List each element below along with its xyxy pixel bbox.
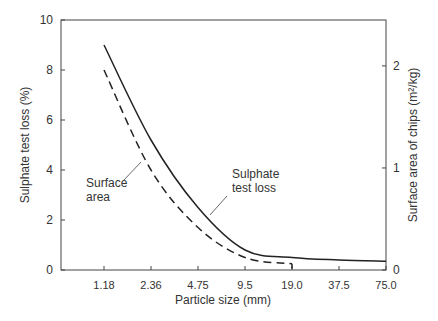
y-tick-label: 10 — [40, 13, 54, 27]
x-axis-label: Particle size (mm) — [175, 293, 271, 307]
series-lines — [104, 45, 386, 269]
y-tick-label: 8 — [46, 63, 53, 77]
y2-tick-label: 1 — [393, 161, 400, 175]
annotation-sulphate-test-loss: Sulphate test loss — [210, 167, 280, 215]
svg-text:area: area — [86, 190, 110, 204]
x-tick-label: 19.0 — [281, 279, 302, 291]
chart: 0246810 012 1.182.364.759.519.037.575.0 … — [0, 0, 438, 321]
x-tick-label: 9.5 — [237, 279, 252, 291]
x-tick-label: 2.36 — [140, 279, 161, 291]
svg-text:Surface: Surface — [86, 176, 128, 190]
sulphate-loss-line — [104, 45, 386, 261]
x-tick-label: 4.75 — [187, 279, 208, 291]
svg-text:test loss: test loss — [232, 181, 276, 195]
y2-tick-label: 0 — [393, 263, 400, 277]
y-tick-label: 6 — [46, 113, 53, 127]
y-tick-label: 4 — [46, 163, 53, 177]
right-y-axis-ticks: 012 — [382, 59, 400, 277]
y2-tick-label: 2 — [393, 59, 400, 73]
svg-text:Sulphate: Sulphate — [232, 167, 280, 181]
y-tick-label: 0 — [46, 263, 53, 277]
y-tick-label: 2 — [46, 213, 53, 227]
x-tick-label: 75.0 — [375, 279, 396, 291]
x-tick-label: 1.18 — [93, 279, 114, 291]
x-tick-label: 37.5 — [328, 279, 349, 291]
annotation-surface-area: Surface area — [86, 162, 141, 204]
y2-axis-label: Surface area of chips (m²/kg) — [406, 68, 420, 223]
y-axis-label: Sulphate test loss (%) — [18, 87, 32, 204]
